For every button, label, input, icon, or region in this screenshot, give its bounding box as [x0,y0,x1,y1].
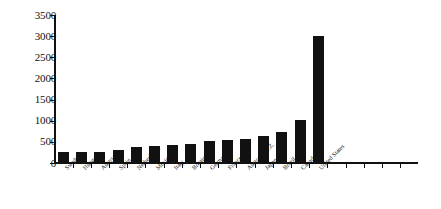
y-axis-tick-mark [50,15,55,16]
y-axis-tick-mark [50,121,55,122]
y-axis-tick-mark [50,163,55,164]
y-axis-tick-mark [50,57,55,58]
y-axis-tick-mark [50,36,55,37]
bar [276,132,287,163]
y-axis-tick-row: 0 [0,158,56,169]
x-axis-tick-mark-empty [382,164,383,168]
y-axis-tick-row: 2500 [0,52,56,63]
bar [295,120,306,163]
y-axis-tick-row: 2000 [0,73,56,84]
y-axis-tick-mark [50,100,55,101]
y-axis-tick-mark [50,78,55,79]
x-axis-tick-mark-empty [400,164,401,168]
y-axis-tick-row: 1500 [0,94,56,105]
y-axis-tick-row: 3500 [0,10,56,21]
y-axis-tick-mark [50,142,55,143]
y-axis-tick-row: 500 [0,136,56,147]
x-axis-tick-mark-empty [346,164,347,168]
bar [313,36,324,163]
bar-chart: 0500100015002000250030003500 SwedenHunga… [0,0,441,209]
x-axis-tick-mark-empty [364,164,365,168]
y-axis-tick-row: 3000 [0,31,56,42]
y-axis-tick-row: 1000 [0,115,56,126]
